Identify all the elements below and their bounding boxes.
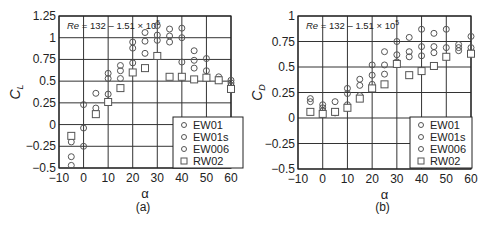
y-tick-label: 0.25 xyxy=(33,96,57,110)
y-tick-label: 0 xyxy=(288,111,295,125)
plot-svg: −100102030405060−0.5−0.2500.250.50.751αC… xyxy=(240,0,487,225)
data-point-square xyxy=(142,65,149,72)
data-point-square xyxy=(443,53,450,60)
data-point-square xyxy=(129,69,136,76)
plot-svg: −100102030405060−0.5−0.2500.250.50.7511.… xyxy=(0,0,245,225)
x-axis-label: α xyxy=(141,186,149,201)
x-tick-label: 30 xyxy=(151,171,165,185)
y-tick-label: 1 xyxy=(49,31,56,45)
square-marker-icon xyxy=(418,158,424,164)
data-point-square xyxy=(369,85,376,92)
y-tick-label: 0.75 xyxy=(33,52,57,66)
data-point-circle xyxy=(167,39,173,45)
legend-label: EW006 xyxy=(193,143,229,155)
data-point-circle xyxy=(406,34,412,40)
series-ew01-ew01s-ew006 xyxy=(307,26,474,116)
data-point-circle xyxy=(142,50,148,56)
data-point-square xyxy=(92,111,99,118)
x-tick-label: 10 xyxy=(341,172,355,186)
y-tick-label: 0.25 xyxy=(272,86,296,100)
data-point-square xyxy=(117,85,124,92)
figure-caption: (b) xyxy=(375,200,390,214)
figure-caption: (a) xyxy=(136,200,151,214)
y-tick-label: −0.5 xyxy=(32,161,56,175)
legend: EW01EW01sEW006RW02 xyxy=(410,117,472,168)
data-point-circle xyxy=(431,30,437,36)
x-tick-label: 40 xyxy=(415,172,429,186)
legend-label: EW006 xyxy=(430,143,466,155)
data-point-square xyxy=(178,73,185,80)
data-point-circle xyxy=(68,154,74,160)
data-point-circle xyxy=(332,99,338,105)
y-tick-label: 0.5 xyxy=(39,74,56,88)
reynolds-annotation: Re = 132 – 1.51 × 105 xyxy=(306,19,399,31)
data-point-square xyxy=(228,85,235,92)
y-tick-label: 1.25 xyxy=(33,9,57,23)
data-point-square xyxy=(381,81,388,88)
data-point-square xyxy=(406,72,413,79)
y-tick-label: 0 xyxy=(49,118,56,132)
legend-label: EW01 xyxy=(193,119,223,131)
x-tick-label: 20 xyxy=(365,172,379,186)
data-point-square xyxy=(356,95,363,102)
x-tick-label: 60 xyxy=(464,172,478,186)
x-tick-label: 30 xyxy=(390,172,404,186)
data-point-square xyxy=(166,73,173,80)
x-tick-label: 0 xyxy=(80,171,87,185)
data-point-square xyxy=(430,62,437,69)
data-point-square xyxy=(468,50,475,57)
data-point-square xyxy=(307,108,314,115)
legend-label: EW01 xyxy=(430,119,460,131)
data-point-circle xyxy=(357,76,363,82)
data-point-square xyxy=(105,98,112,105)
data-point-square xyxy=(344,104,351,111)
legend-label: EW01s xyxy=(430,131,466,143)
data-point-square xyxy=(215,77,222,84)
series-rw02 xyxy=(307,50,475,117)
y-axis-label: CL xyxy=(7,84,25,99)
y-tick-label: −0.5 xyxy=(271,162,295,176)
y-axis-label: CD xyxy=(249,84,267,101)
legend-label: RW02 xyxy=(193,155,223,167)
x-tick-label: 50 xyxy=(200,171,214,185)
data-point-circle xyxy=(117,76,123,82)
y-tick-label: 0.75 xyxy=(272,35,296,49)
data-point-square xyxy=(418,68,425,75)
data-point-square xyxy=(191,76,198,83)
data-point-circle xyxy=(382,71,388,77)
legend-label: EW01s xyxy=(193,131,229,143)
x-tick-label: 20 xyxy=(126,171,140,185)
y-tick-label: 1 xyxy=(288,9,295,23)
data-point-circle xyxy=(191,48,197,54)
legend-label: RW02 xyxy=(430,155,460,167)
data-point-circle xyxy=(431,50,437,56)
data-point-circle xyxy=(93,90,99,96)
x-tick-label: 10 xyxy=(101,171,115,185)
data-point-circle xyxy=(167,26,173,32)
data-point-square xyxy=(332,108,339,115)
x-tick-label: 0 xyxy=(319,172,326,186)
data-point-circle xyxy=(191,57,197,63)
reynolds-annotation: Re = 132 – 1.51 × 105 xyxy=(67,19,160,31)
chart-a-lift-coefficient: −100102030405060−0.5−0.2500.250.50.7511.… xyxy=(0,0,245,225)
data-point-circle xyxy=(142,38,148,44)
y-tick-label: −0.25 xyxy=(26,139,57,153)
x-tick-label: 60 xyxy=(224,171,238,185)
data-point-square xyxy=(203,74,210,81)
data-point-circle xyxy=(191,65,197,71)
data-point-square xyxy=(393,60,400,67)
data-point-circle xyxy=(357,82,363,88)
chart-b-drag-coefficient: −100102030405060−0.5−0.2500.250.50.751αC… xyxy=(240,0,487,225)
data-point-circle xyxy=(382,49,388,55)
square-marker-icon xyxy=(181,158,187,164)
data-point-square xyxy=(154,52,161,59)
data-point-circle xyxy=(431,44,437,50)
y-tick-label: −0.25 xyxy=(265,137,296,151)
data-point-square xyxy=(319,110,326,117)
y-tick-label: 0.5 xyxy=(278,60,295,74)
x-tick-label: 50 xyxy=(440,172,454,186)
x-tick-label: 40 xyxy=(175,171,189,185)
data-point-square xyxy=(68,132,75,139)
legend: EW01EW01sEW006RW02 xyxy=(173,117,243,168)
